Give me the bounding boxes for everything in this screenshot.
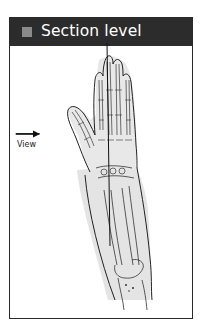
view-direction-label: View (17, 140, 36, 149)
right-arrow-icon (16, 131, 40, 138)
hand-forearm-illustration (0, 0, 205, 333)
